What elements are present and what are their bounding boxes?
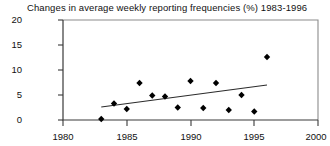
x-tick-label-2000: 2000 xyxy=(305,131,326,142)
data-point xyxy=(226,107,232,113)
axis-lines xyxy=(63,20,318,120)
y-tick-label-20: 20 xyxy=(11,14,22,25)
data-point xyxy=(136,80,142,86)
plot-frame xyxy=(63,20,318,120)
y-tick-marks xyxy=(58,20,63,120)
x-tick-label-1990: 1990 xyxy=(180,131,201,142)
data-point xyxy=(200,105,206,111)
y-tick-label-5: 5 xyxy=(17,89,22,100)
data-point xyxy=(213,80,219,86)
x-tick-label-1985: 1985 xyxy=(116,131,137,142)
data-point xyxy=(264,54,270,60)
data-point xyxy=(175,104,181,110)
data-point xyxy=(251,108,257,114)
y-tick-label-15: 15 xyxy=(11,39,22,50)
data-point xyxy=(124,106,130,112)
data-point xyxy=(238,92,244,98)
scatter-plot: 20 15 10 5 0 1980 1985 1990 1995 2000 xyxy=(0,0,330,146)
data-point xyxy=(187,78,193,84)
data-point xyxy=(149,92,155,98)
data-point xyxy=(98,116,104,122)
x-tick-label-1980: 1980 xyxy=(52,131,73,142)
y-tick-label-10: 10 xyxy=(11,64,22,75)
x-tick-label-1995: 1995 xyxy=(243,131,264,142)
y-tick-label-0: 0 xyxy=(17,114,22,125)
chart-figure: Changes in average weekly reporting freq… xyxy=(0,0,330,146)
